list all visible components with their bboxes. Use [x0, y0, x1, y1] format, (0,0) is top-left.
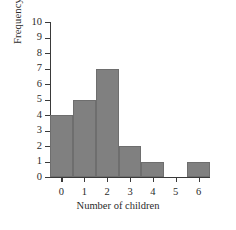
x-axis-tick	[61, 177, 62, 182]
x-axis-tick-label: 3	[119, 185, 141, 199]
x-axis-tick	[130, 177, 131, 182]
y-axis-tick-label: 7	[37, 61, 42, 75]
x-axis-tick-label: 0	[50, 185, 72, 199]
x-axis-tick	[84, 177, 85, 182]
y-axis-tick-label: 4	[37, 108, 42, 122]
x-axis-tick-label: 5	[165, 185, 187, 199]
y-axis-tick-label: 6	[37, 77, 42, 91]
y-axis-title: Frequency	[12, 0, 26, 76]
bar	[187, 162, 210, 178]
y-axis-tick-label: 10	[32, 15, 43, 29]
y-axis-tick-label: 1	[37, 154, 42, 168]
y-axis-tick	[45, 100, 50, 101]
x-axis-tick-label: 4	[142, 185, 164, 199]
bar	[119, 146, 142, 177]
y-axis-tick	[45, 177, 50, 178]
x-axis-title: Number of children	[0, 200, 236, 211]
plot-area: 012345678910 0123456	[50, 22, 210, 177]
y-axis-tick	[45, 38, 50, 39]
bar	[50, 115, 73, 177]
x-axis-tick-label: 2	[96, 185, 118, 199]
bar	[141, 162, 164, 178]
x-axis-tick-label: 6	[188, 185, 210, 199]
x-axis-tick	[153, 177, 154, 182]
y-axis-tick-label: 3	[37, 123, 42, 137]
x-axis-tick	[107, 177, 108, 182]
y-axis-tick-label: 2	[37, 139, 42, 153]
bar	[96, 69, 119, 178]
x-axis-tick	[176, 177, 177, 182]
y-axis-tick	[45, 84, 50, 85]
y-axis-tick-label: 8	[37, 46, 42, 60]
bar	[73, 100, 96, 178]
y-axis-tick	[45, 53, 50, 54]
y-axis-tick-label: 5	[37, 92, 42, 106]
y-axis-tick-label: 9	[37, 30, 42, 44]
x-axis-tick	[199, 177, 200, 182]
x-axis-tick-label: 1	[73, 185, 95, 199]
y-axis-tick	[45, 69, 50, 70]
y-axis-tick-label: 0	[37, 170, 42, 184]
y-axis-tick	[45, 22, 50, 23]
histogram-figure: Frequency 012345678910 0123456 Number of…	[0, 0, 236, 230]
